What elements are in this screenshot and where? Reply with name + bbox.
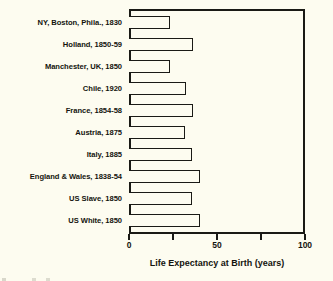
bar-row — [130, 77, 304, 99]
bar-row — [130, 188, 304, 210]
bar-row — [130, 11, 304, 33]
category-label-row: Chile, 1920 — [0, 77, 126, 99]
category-label: France, 1854-58 — [66, 106, 122, 115]
category-label-row: Holland, 1850-59 — [0, 33, 126, 55]
category-label-row: England & Wales, 1838-54 — [0, 166, 126, 188]
category-label: Chile, 1920 — [83, 84, 122, 93]
category-axis-labels: NY, Boston, Phila., 1830 Holland, 1850-5… — [0, 11, 126, 232]
bar-row — [130, 121, 304, 143]
x-axis-tick-labels: 050100 — [129, 240, 305, 252]
category-label: Austria, 1875 — [75, 128, 122, 137]
bar — [129, 82, 186, 95]
bar — [129, 38, 193, 51]
life-expectancy-bar-chart: NY, Boston, Phila., 1830 Holland, 1850-5… — [0, 0, 333, 281]
x-axis-tick-label: 100 — [298, 240, 312, 250]
category-label: England & Wales, 1838-54 — [30, 172, 122, 181]
category-label-row: France, 1854-58 — [0, 99, 126, 121]
category-label-row: NY, Boston, Phila., 1830 — [0, 11, 126, 33]
bar-row — [130, 99, 304, 121]
bar — [129, 192, 192, 205]
bar — [129, 170, 200, 183]
x-axis-tick-label: 0 — [127, 240, 132, 250]
bar — [129, 126, 185, 139]
category-label: Holland, 1850-59 — [63, 40, 122, 49]
bar — [129, 60, 170, 73]
bar — [129, 214, 200, 227]
category-label: Manchester, UK, 1850 — [45, 62, 122, 71]
bar-row — [130, 166, 304, 188]
category-label: US Slave, 1850 — [69, 194, 122, 203]
bar-row — [130, 144, 304, 166]
bars-layer — [130, 11, 304, 232]
category-label: NY, Boston, Phila., 1830 — [38, 18, 122, 27]
category-label-row: US Slave, 1850 — [0, 188, 126, 210]
bar — [129, 148, 192, 161]
bar — [129, 104, 193, 117]
category-label-row: US White, 1850 — [0, 210, 126, 232]
x-axis-tick-label: 50 — [212, 240, 221, 250]
category-label: US White, 1850 — [68, 216, 122, 225]
category-label: Italy, 1885 — [87, 150, 122, 159]
category-label-row: Austria, 1875 — [0, 121, 126, 143]
bar-row — [130, 55, 304, 77]
bar — [129, 16, 170, 29]
category-label-row: Manchester, UK, 1850 — [0, 55, 126, 77]
category-label-row: Italy, 1885 — [0, 144, 126, 166]
bar-row — [130, 210, 304, 232]
bar-row — [130, 33, 304, 55]
x-axis-title: Life Expectancy at Birth (years) — [129, 258, 305, 268]
